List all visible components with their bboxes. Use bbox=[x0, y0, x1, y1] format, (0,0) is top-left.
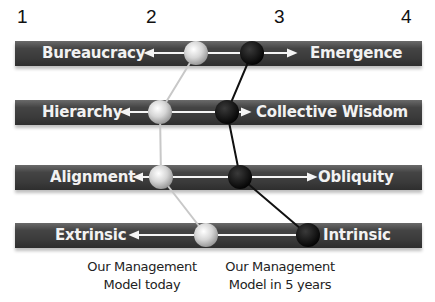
left-label-bureaucracy: Bureaucracy bbox=[42, 41, 145, 66]
right-label-intrinsic: Intrinsic bbox=[323, 223, 391, 248]
future-marker-row-4 bbox=[296, 223, 320, 247]
future-line bbox=[227, 53, 308, 235]
today-marker-row-2 bbox=[148, 100, 172, 124]
future-marker-row-1 bbox=[240, 41, 264, 65]
today-line bbox=[160, 53, 206, 235]
future-marker-row-2 bbox=[215, 100, 239, 124]
right-label-emergence: Emergence bbox=[310, 41, 402, 66]
caption-future-line-2: Model in 5 years bbox=[220, 276, 340, 294]
caption-today-line-1: Our Management bbox=[82, 258, 202, 276]
right-label-collective-wisdom: Collective Wisdom bbox=[256, 100, 408, 125]
caption-future-line-1: Our Management bbox=[220, 258, 340, 276]
future-marker-row-3 bbox=[228, 165, 252, 189]
right-label-obliquity: Obliquity bbox=[318, 165, 393, 190]
left-label-extrinsic: Extrinsic bbox=[55, 223, 126, 248]
today-marker-row-4 bbox=[194, 223, 218, 247]
left-label-hierarchy: Hierarchy bbox=[42, 100, 122, 125]
caption-future: Our Management Model in 5 years bbox=[220, 258, 340, 294]
caption-today: Our Management Model today bbox=[82, 258, 202, 294]
arrow-row-1 bbox=[146, 50, 295, 56]
left-label-alignment: Alignment bbox=[50, 165, 135, 190]
today-marker-row-3 bbox=[149, 165, 173, 189]
caption-today-line-2: Model today bbox=[82, 276, 202, 294]
today-marker-row-1 bbox=[184, 41, 208, 65]
